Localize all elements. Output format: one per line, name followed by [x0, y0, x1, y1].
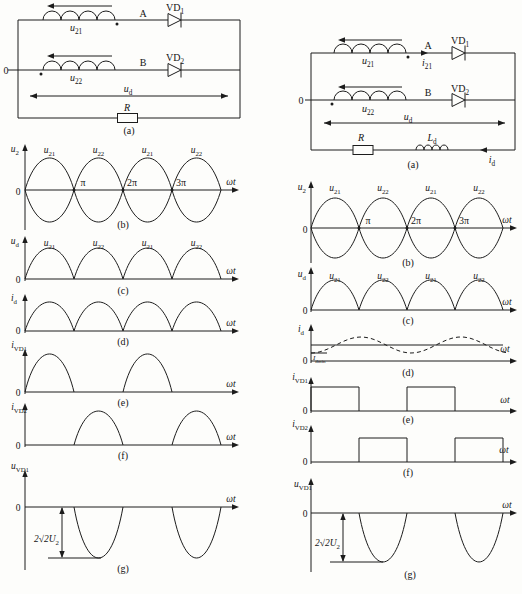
x-axis-label: ωt [226, 266, 236, 276]
hump-label-sub: 21 [334, 276, 341, 283]
current-pulse [455, 438, 503, 462]
y-axis-label-sub: d [14, 298, 18, 305]
top-winding-arrowhead [47, 3, 54, 8]
output-voltage-label: ud [124, 83, 133, 97]
resistor-label-base: R [357, 132, 364, 143]
x-axis-arrowhead [510, 358, 517, 363]
tick-label: 2π [411, 215, 421, 226]
panel-caption: (d) [402, 367, 414, 379]
tick-label: 2π [127, 177, 137, 188]
secondary-current-label: i21 [422, 57, 432, 71]
center-tap-label: 0 [4, 65, 9, 76]
hump-label: u21 [425, 183, 437, 195]
waveform-curve [74, 507, 221, 558]
y-axis-arrowhead [22, 144, 27, 151]
hump-label: u21 [329, 183, 341, 195]
diode-symbol [452, 94, 465, 107]
x-axis-label: ωt [502, 297, 512, 307]
hump-label: u21 [142, 145, 154, 157]
hump-label-sub: 21 [334, 188, 341, 195]
waveform-curve [25, 248, 221, 279]
hump-label-sub: 21 [430, 188, 437, 195]
u22-curve [25, 190, 221, 222]
panel-caption: (c) [117, 285, 128, 297]
x-axis-arrowhead [510, 225, 517, 230]
origin-label: 0 [303, 306, 308, 316]
y-axis-arrowhead [22, 236, 27, 243]
panel-caption-base: (e) [117, 397, 128, 409]
y-axis-arrowhead [308, 324, 313, 331]
resistor-symbol [353, 146, 373, 155]
dimension-arrowhead-top [340, 513, 345, 520]
x-axis-label-base: ωt [502, 500, 512, 510]
right-circuit: u21i21u22ABVD1VD20udRLdid(a) [299, 35, 516, 171]
right-waveform-g: 0uVD1ωt(g)2√2U2 [294, 478, 517, 581]
waveform-curve [74, 411, 221, 445]
x-axis-label: ωt [226, 318, 236, 328]
y-axis-label-sub: VD2 [14, 407, 28, 414]
x-axis-label: ωt [502, 500, 512, 510]
diode-symbol [168, 14, 181, 27]
panel-caption: (f) [118, 450, 128, 462]
x-axis-label-base: ωt [226, 494, 236, 504]
top-winding-coil [43, 11, 115, 20]
panel-caption: (b) [402, 257, 414, 269]
x-axis-arrowhead [232, 504, 239, 509]
tick-label-base: 2π [127, 177, 137, 188]
x-axis-label-base: ωt [226, 432, 236, 442]
load-current-label-sub: d [492, 160, 496, 168]
top-winding-label: u21 [362, 55, 375, 69]
panel-caption-base: (f) [118, 450, 128, 462]
diode2-label-sub: 2 [465, 89, 469, 97]
origin-label-base: 0 [303, 509, 308, 519]
x-axis-arrowhead [510, 510, 517, 515]
dimension-arrowhead-top [59, 507, 64, 514]
center-tap-label-base: 0 [299, 95, 304, 106]
hump-label: u22 [93, 145, 105, 157]
bottom-winding-label-sub: 22 [75, 78, 83, 86]
bottom-winding-arrowhead [47, 53, 54, 58]
panel-caption-base: (d) [402, 367, 414, 379]
origin-label-base: 0 [303, 356, 308, 366]
tick-label-base: 2π [411, 215, 421, 226]
top-winding-arrowhead [338, 37, 345, 42]
y-axis-label-sub: VD1 [299, 484, 312, 491]
hump-label: u22 [191, 145, 203, 157]
node-a-label: A [424, 40, 432, 51]
x-axis-label: ωt [500, 395, 510, 405]
y-axis-label-sub: d [303, 274, 307, 281]
y-axis-label-sub: d [16, 241, 20, 248]
bottom-winding-coil [43, 61, 115, 70]
x-axis-arrowhead [510, 307, 517, 312]
peak-annotation: 2√2U2 [34, 534, 60, 546]
panel-caption-base: (g) [404, 569, 416, 581]
panel-caption-base: (f) [403, 467, 413, 479]
origin-label: 0 [303, 457, 308, 467]
u21-curve [25, 158, 221, 190]
resistor-symbol [118, 114, 138, 123]
hump-label-sub: 22 [195, 150, 202, 157]
panel-caption: (g) [117, 563, 129, 575]
left-waveform-b: 0u2ωt(b)π2π3πu21u22u21u22 [11, 144, 239, 231]
y-axis-label: id [11, 293, 18, 305]
hump-label: u22 [473, 183, 485, 195]
x-axis-label-base: ωt [226, 266, 236, 276]
diode2-label-base: VD [166, 52, 180, 63]
x-axis-arrowhead [232, 389, 239, 394]
panel-caption-base: (c) [117, 285, 128, 297]
y-axis-label: ud [298, 269, 307, 281]
origin-label: 0 [16, 275, 21, 285]
bottom-winding-label: u22 [362, 103, 375, 117]
y-axis-arrowhead [22, 294, 27, 301]
y-axis-label: u2 [11, 144, 20, 156]
y-axis-label-sub: VD1 [295, 377, 308, 384]
waveform-curve [359, 513, 503, 562]
output-voltage-label-sub: d [129, 89, 133, 97]
ud-arrowhead-right [221, 93, 228, 98]
diode1-label-base: VD [166, 2, 180, 13]
origin-label: 0 [303, 356, 308, 366]
tick-dot [406, 227, 409, 230]
ud-arrowhead-left [324, 120, 331, 125]
top-winding-label: u21 [70, 22, 83, 36]
x-axis-label-base: ωt [500, 395, 510, 405]
